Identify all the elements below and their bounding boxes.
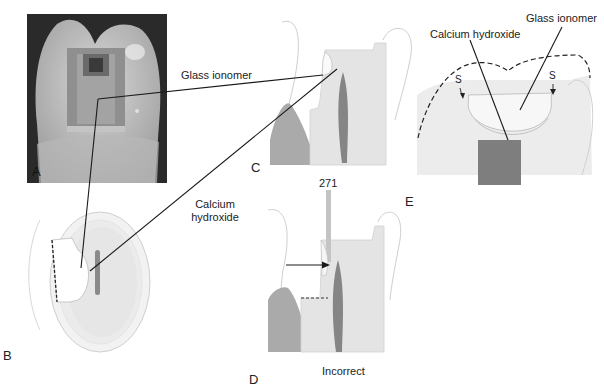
panel-c-drawing <box>270 21 411 165</box>
label-calcium: Calcium <box>190 198 240 211</box>
diagram-canvas <box>0 0 604 392</box>
label-hydroxide: hydroxide <box>186 211 244 224</box>
label-incorrect: Incorrect <box>322 365 365 378</box>
panel-letter-d: D <box>249 372 258 387</box>
panel-b-drawing <box>29 212 150 352</box>
panel-letter-b: B <box>3 348 12 363</box>
panel-d-drawing <box>268 190 401 352</box>
label-bur-271: 271 <box>319 177 337 190</box>
label-e-s-right: S <box>549 69 556 82</box>
panel-letter-c: C <box>251 160 260 175</box>
label-glass-ionomer: Glass ionomer <box>181 69 252 82</box>
panel-e-drawing <box>417 55 593 185</box>
label-e-calcium-hydroxide: Calcium hydroxide <box>430 28 520 41</box>
label-e-glass-ionomer: Glass ionomer <box>526 12 597 25</box>
label-e-s-left: S <box>455 73 462 86</box>
panel-letter-e: E <box>405 194 414 209</box>
